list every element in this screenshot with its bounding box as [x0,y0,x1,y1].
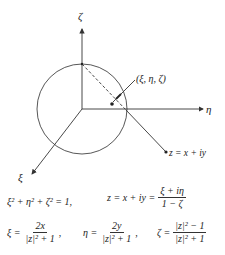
sphere-equation-text: ξ² + η² + ζ² = 1, [7,196,72,207]
zeta-fraction: |z|² − 1 |z|² + 1 [173,221,206,244]
sphere-point-label: (ξ, η, ζ) [136,73,167,85]
north-pole-point [81,63,83,65]
xi-axis-label: ξ [18,171,23,184]
eta-lhs: η = [83,228,97,238]
zeta-axis-label: ζ [78,10,84,23]
equation-eta: η = 2y |z|² + 1 , [83,221,138,244]
equation-z-definition: z = x + iy = ξ + iη 1 − ζ [107,186,186,209]
zeta-denominator: |z|² + 1 [173,233,206,244]
point-leader-tick [116,94,121,99]
xi-fraction: 2x |z|² + 1 [24,221,57,244]
eta-numerator: 2y [110,221,123,233]
xi-comma: , [59,228,62,238]
z-definition-numerator: ξ + iη [158,186,186,198]
plane-point-label: z = x + iy [168,148,207,158]
zeta-lhs: ζ = [157,228,170,238]
sphere-point [110,102,114,106]
z-definition-lhs: z = x + iy = [107,193,155,203]
xi-lhs: ξ = [7,228,21,238]
eta-axis-label: η [206,103,211,115]
xi-denominator: |z|² + 1 [24,233,57,244]
xi-numerator: 2x [33,221,46,233]
equation-sphere: ξ² + η² + ζ² = 1, [7,197,72,207]
eta-comma: , [135,228,138,238]
eta-denominator: |z|² + 1 [100,233,133,244]
equation-zeta: ζ = |z|² − 1 |z|² + 1 [157,221,206,244]
eta-fraction: 2y |z|² + 1 [100,221,133,244]
z-definition-denominator: 1 − ζ [160,198,185,209]
zeta-numerator: |z|² − 1 [173,221,206,233]
plane-point [164,150,167,153]
projection-line-dashed [82,64,126,110]
z-definition-fraction: ξ + iη 1 − ζ [158,186,186,209]
equation-xi: ξ = 2x |z|² + 1 , [7,221,61,244]
stereographic-diagram: ζ η ξ (ξ, η, ζ) z = x + iy [0,0,225,185]
projection-line-solid [126,110,166,152]
xi-axis [32,109,82,174]
